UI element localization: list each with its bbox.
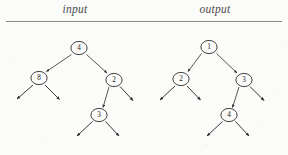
leaf-stub-4-right — [236, 122, 250, 137]
node-output-1[interactable]: 1 — [201, 40, 217, 53]
tree-output-edges — [188, 54, 239, 108]
leaf-stub-4-left — [207, 122, 223, 137]
leaf-stub-3-right — [106, 122, 120, 137]
leaf-stub-3-left — [77, 122, 93, 137]
tree-input-leaf-stubs — [17, 85, 133, 136]
edge-1-to-3 — [217, 54, 238, 74]
tree-input-nodes: 4 8 2 3 — [31, 41, 122, 121]
leaf-stub-8-right — [45, 85, 60, 100]
leaf-stub-2-right — [120, 87, 133, 101]
tree-output-leaf-stubs — [160, 86, 264, 136]
edge-4-to-2 — [87, 55, 108, 74]
node-label: 3 — [97, 111, 101, 119]
node-label: 2 — [179, 75, 183, 83]
node-label: 1 — [207, 43, 211, 51]
node-output-4[interactable]: 4 — [221, 108, 237, 121]
node-input-8[interactable]: 8 — [31, 71, 47, 84]
leaf-stub-3-right — [250, 87, 264, 101]
tree-graphics-layer: 4 8 2 3 — [0, 0, 288, 155]
edge-1-to-2 — [188, 54, 202, 72]
leaf-stub-2-left — [160, 86, 175, 100]
edge-2-to-3 — [103, 87, 109, 108]
node-input-3[interactable]: 3 — [91, 108, 107, 121]
node-input-2[interactable]: 2 — [106, 73, 122, 86]
tree-output-nodes: 1 2 3 4 — [173, 40, 252, 121]
leaf-stub-2-right — [187, 86, 201, 100]
node-output-3[interactable]: 3 — [236, 73, 252, 86]
node-label: 2 — [112, 76, 116, 84]
node-output-2[interactable]: 2 — [173, 72, 189, 85]
node-label: 4 — [227, 111, 231, 119]
tree-output: 1 2 3 4 — [160, 40, 264, 136]
node-input-4[interactable]: 4 — [71, 41, 87, 54]
leaf-stub-8-left — [17, 85, 33, 99]
tree-input: 4 8 2 3 — [17, 41, 133, 136]
edge-4-to-8 — [47, 55, 72, 72]
node-label: 4 — [77, 44, 81, 52]
tree-figure: input output — [0, 0, 288, 155]
tree-input-edges — [47, 55, 110, 108]
node-label: 3 — [242, 76, 246, 84]
node-label: 8 — [37, 74, 41, 82]
edge-3-to-4 — [233, 87, 240, 108]
